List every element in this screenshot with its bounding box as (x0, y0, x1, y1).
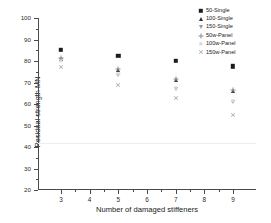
x-tick-minor (133, 190, 134, 192)
x-tick: 8 (204, 190, 205, 194)
x-axis-title: Number of damaged stiffeners (38, 205, 256, 214)
legend-marker-icon (196, 49, 205, 56)
y-tick-minor (36, 93, 38, 94)
y-tick-minor (36, 115, 38, 116)
y-tick: 20 (34, 190, 38, 191)
legend-label: 100w-Panel (206, 41, 236, 47)
x-tick-label: 4 (88, 197, 92, 203)
legend-label: 50w-Panel (206, 33, 232, 39)
data-point (58, 65, 63, 70)
data-point (231, 64, 235, 68)
legend-label: 150-Single (206, 24, 233, 30)
legend-label: 100-Single (206, 16, 233, 22)
y-tick-minor (36, 179, 38, 180)
legend-label: 150w-Panel (206, 50, 236, 56)
y-tick-label: 100 (21, 15, 31, 21)
x-tick-minor (190, 190, 191, 192)
data-point (173, 59, 177, 63)
legend-item: 100w-Panel (196, 41, 236, 48)
data-point (116, 66, 121, 71)
y-tick-label: 70 (24, 79, 31, 85)
legend-item: 150-Single (196, 24, 236, 31)
x-tick-label: 8 (203, 197, 207, 203)
x-tick: 5 (118, 190, 119, 194)
y-tick: 50 (34, 126, 38, 127)
data-point (59, 59, 62, 62)
data-point (173, 95, 178, 100)
legend-item: 150w-Panel (196, 49, 236, 56)
x-tick-minor (219, 190, 220, 192)
y-tick: 40 (34, 147, 38, 148)
y-tick: 100 (34, 18, 38, 19)
y-tick-label: 30 (24, 165, 31, 171)
y-tick-minor (36, 29, 38, 30)
legend-label: 50-Single (206, 8, 230, 14)
legend-item: 100-Single (196, 15, 236, 22)
data-point (116, 53, 120, 57)
y-tick-minor (36, 158, 38, 159)
y-axis-line (38, 18, 39, 190)
x-tick-minor (104, 190, 105, 192)
x-tick-label: 5 (117, 197, 121, 203)
data-point (116, 82, 121, 87)
legend-marker-icon (196, 7, 205, 14)
y-tick: 30 (34, 169, 38, 170)
y-tick-minor (36, 72, 38, 73)
data-point (231, 88, 236, 93)
y-tick-minor (36, 50, 38, 51)
legend-item: 50-Single (196, 7, 236, 14)
x-tick: 6 (147, 190, 148, 194)
x-tick: 9 (233, 190, 234, 194)
data-point (173, 77, 178, 82)
data-point (59, 48, 63, 52)
data-point (117, 72, 120, 75)
legend-marker-icon (196, 24, 205, 31)
y-tick: 60 (34, 104, 38, 105)
x-tick: 4 (90, 190, 91, 194)
x-tick-label: 3 (59, 197, 63, 203)
y-tick-label: 20 (24, 187, 31, 193)
residual-strength-scatter-chart: Residual strength MN Number of damaged s… (0, 0, 271, 223)
y-tick-label: 40 (24, 144, 31, 150)
x-tick-minor (75, 190, 76, 192)
faint-horizontal-rule (38, 143, 256, 144)
x-tick-minor (161, 190, 162, 192)
legend-item: 50w-Panel (196, 32, 236, 39)
chart-legend: 50-Single100-Single150-Single50w-Panel10… (196, 7, 236, 56)
y-tick-label: 80 (24, 58, 31, 64)
y-tick-label: 60 (24, 101, 31, 107)
x-tick-label: 6 (145, 197, 149, 203)
data-point (174, 86, 177, 89)
x-tick-label: 7 (174, 197, 178, 203)
legend-marker-icon (196, 15, 205, 22)
legend-marker-icon (196, 41, 205, 48)
y-tick: 90 (34, 40, 38, 41)
x-tick: 7 (176, 190, 177, 194)
data-point (231, 112, 236, 117)
y-tick: 80 (34, 61, 38, 62)
data-point (231, 99, 234, 102)
legend-marker-icon (196, 32, 205, 39)
x-tick-label: 9 (231, 197, 235, 203)
x-tick: 3 (61, 190, 62, 194)
y-tick-minor (36, 136, 38, 137)
y-tick-label: 90 (24, 36, 31, 42)
y-tick-label: 50 (24, 122, 31, 128)
y-tick: 70 (34, 83, 38, 84)
